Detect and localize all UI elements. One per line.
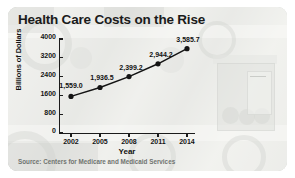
data-point-label: 1,936.5: [90, 74, 113, 81]
infographic-card: Health Care Costs on the Rise 0800160024…: [0, 0, 295, 178]
data-point-marker: [97, 85, 102, 90]
card-frame: Health Care Costs on the Rise 0800160024…: [8, 7, 287, 171]
source-note: Source: Centers for Medicare and Medicai…: [18, 158, 175, 165]
data-point-marker: [155, 61, 160, 66]
chart-panel: Health Care Costs on the Rise 0800160024…: [8, 7, 287, 171]
data-point-marker: [184, 46, 189, 51]
data-point-label: 2,399.2: [119, 64, 142, 71]
data-series: [8, 7, 287, 171]
data-point-label: 3,585.7: [176, 36, 199, 43]
data-point-marker: [126, 74, 131, 79]
data-point-label: 2,944.2: [149, 51, 172, 58]
data-point-label: 1,559.0: [59, 82, 82, 89]
data-point-marker: [68, 94, 73, 99]
